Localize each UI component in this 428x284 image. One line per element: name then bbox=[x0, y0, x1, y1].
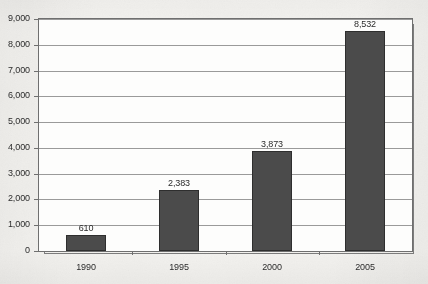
x-axis-category-label: 1995 bbox=[149, 262, 209, 272]
bar-chart-figure: 01,0002,0003,0004,0005,0006,0007,0008,00… bbox=[0, 0, 428, 284]
y-axis-tick-label: 1,000 bbox=[0, 219, 30, 229]
y-axis-tick-label: 4,000 bbox=[0, 142, 30, 152]
x-axis-tick-mark bbox=[226, 251, 227, 255]
bar bbox=[345, 31, 385, 251]
bar-value-label: 610 bbox=[56, 223, 116, 233]
y-axis-tick-label: 6,000 bbox=[0, 90, 30, 100]
bar-value-label: 2,383 bbox=[149, 178, 209, 188]
x-axis-tick-mark bbox=[319, 251, 320, 255]
y-axis-tick-mark bbox=[34, 148, 38, 149]
y-axis-tick-label: 8,000 bbox=[0, 39, 30, 49]
y-axis-tick-mark bbox=[34, 122, 38, 123]
x-axis-tick-mark bbox=[132, 251, 133, 255]
plot-inner bbox=[39, 19, 412, 251]
y-axis-tick-mark bbox=[34, 199, 38, 200]
y-axis-tick-mark bbox=[34, 174, 38, 175]
x-axis-category-label: 2000 bbox=[242, 262, 302, 272]
plot-area bbox=[38, 18, 413, 252]
bar bbox=[66, 235, 106, 251]
x-axis-category-label: 2005 bbox=[335, 262, 395, 272]
x-axis-category-label: 1990 bbox=[56, 262, 116, 272]
y-axis-tick-mark bbox=[34, 251, 38, 252]
y-axis-tick-label: 0 bbox=[0, 245, 30, 255]
y-axis-tick-mark bbox=[34, 19, 38, 20]
y-axis-tick-label: 5,000 bbox=[0, 116, 30, 126]
bar bbox=[252, 151, 292, 251]
y-axis-tick-mark bbox=[34, 96, 38, 97]
y-axis-tick-label: 7,000 bbox=[0, 65, 30, 75]
y-axis-tick-label: 9,000 bbox=[0, 13, 30, 23]
y-axis-tick-mark bbox=[34, 225, 38, 226]
y-axis-tick-label: 2,000 bbox=[0, 193, 30, 203]
bar bbox=[159, 190, 199, 251]
y-axis-tick-mark bbox=[34, 45, 38, 46]
bar-value-label: 8,532 bbox=[335, 19, 395, 29]
bar-value-label: 3,873 bbox=[242, 139, 302, 149]
y-axis-tick-mark bbox=[34, 71, 38, 72]
y-axis-tick-label: 3,000 bbox=[0, 168, 30, 178]
